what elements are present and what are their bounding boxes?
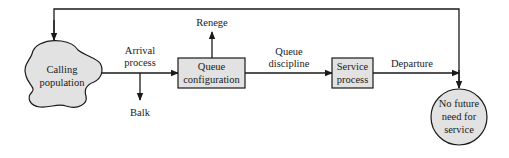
renege-label: Renege (188, 17, 236, 29)
service-process-label: Service process (332, 60, 373, 86)
arrival-label-line1: Arrival (115, 45, 165, 57)
calling-population-label: Calling population (24, 63, 100, 89)
service-process-label-line2: process (332, 73, 373, 86)
calling-population-label-line2: population (24, 76, 100, 89)
queue-configuration-label-line1: Queue (178, 60, 245, 73)
no-future-need-label-line1: No future (431, 97, 487, 110)
service-process-label-line1: Service (332, 60, 373, 73)
no-future-need-label: No future need for service (431, 97, 487, 136)
queue-configuration-label: Queue configuration (178, 60, 245, 86)
no-future-need-label-line3: service (431, 123, 487, 136)
balk-label: Balk (122, 107, 158, 119)
queue-configuration-label-line2: configuration (178, 73, 245, 86)
arrival-label-line2: process (115, 57, 165, 69)
arrival-process-label: Arrival process (115, 45, 165, 69)
queue-discipline-label: Queue discipline (263, 46, 315, 70)
queue-discipline-label-line2: discipline (263, 58, 315, 70)
calling-population-label-line1: Calling (24, 63, 100, 76)
departure-label: Departure (384, 58, 440, 70)
queue-discipline-label-line1: Queue (263, 46, 315, 58)
no-future-need-label-line2: need for (431, 110, 487, 123)
